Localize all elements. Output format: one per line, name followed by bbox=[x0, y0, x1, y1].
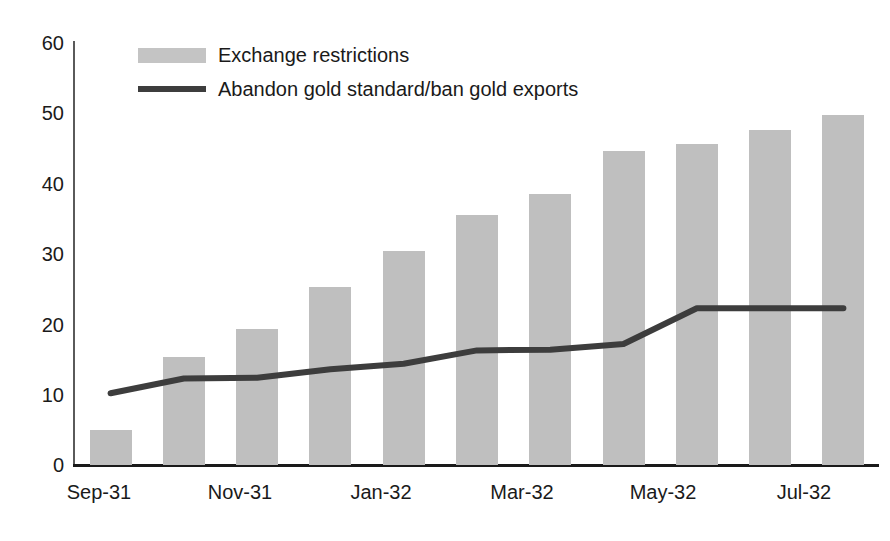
x-tick-label-nov-31: Nov-31 bbox=[185, 481, 295, 503]
bar-sep-31 bbox=[90, 430, 132, 465]
bar-swatch-icon bbox=[138, 48, 206, 63]
legend-label-abandon-gold-standard: Abandon gold standard/ban gold exports bbox=[218, 78, 578, 100]
chart-legend: Exchange restrictions Abandon gold stand… bbox=[138, 38, 658, 106]
y-tick-label-20: 20 bbox=[12, 315, 64, 335]
y-tick-label-60: 60 bbox=[12, 33, 64, 53]
y-tick-label-10: 10 bbox=[12, 385, 64, 405]
bar-mar-32 bbox=[529, 194, 571, 465]
legend-item-abandon-gold-standard[interactable]: Abandon gold standard/ban gold exports bbox=[138, 72, 658, 106]
bar-nov-31 bbox=[236, 329, 278, 465]
bar-feb-32 bbox=[456, 215, 498, 465]
y-tick-label-30: 30 bbox=[12, 244, 64, 264]
x-tick-label-sep-31: Sep-31 bbox=[44, 481, 154, 503]
bar-jun-32 bbox=[749, 130, 791, 465]
bar-dec-31 bbox=[309, 287, 351, 465]
legend-label-exchange-restrictions: Exchange restrictions bbox=[218, 44, 409, 66]
bar-apr-32 bbox=[603, 151, 645, 465]
plot-area bbox=[74, 43, 880, 465]
chart-container: 60 50 40 30 20 10 0 Sep-31 Nov-31 Jan-32… bbox=[0, 0, 890, 541]
y-tick-label-0: 0 bbox=[12, 455, 64, 475]
x-tick-label-may-32: May-32 bbox=[608, 481, 718, 503]
x-tick-label-jan-32: Jan-32 bbox=[326, 481, 436, 503]
bar-jul-32 bbox=[822, 115, 864, 465]
line-swatch-icon bbox=[138, 86, 206, 92]
x-tick-label-mar-32: Mar-32 bbox=[467, 481, 577, 503]
legend-item-exchange-restrictions[interactable]: Exchange restrictions bbox=[138, 38, 658, 72]
y-tick-label-40: 40 bbox=[12, 174, 64, 194]
x-tick-label-jul-32: Jul-32 bbox=[749, 481, 859, 503]
y-tick-label-50: 50 bbox=[12, 103, 64, 123]
bar-oct-31 bbox=[163, 357, 205, 465]
bar-may-32 bbox=[676, 144, 718, 465]
bar-jan-32 bbox=[383, 251, 425, 465]
